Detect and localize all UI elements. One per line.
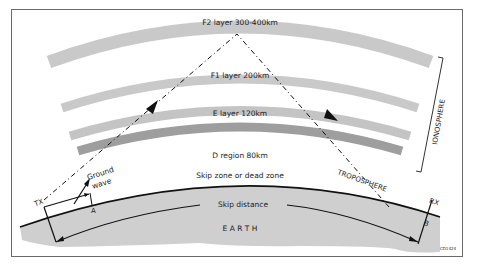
layer-f2-label: F2 layer 300-400km (202, 18, 278, 27)
layer-f2-band (49, 27, 431, 62)
point-a-tick (90, 193, 92, 205)
layer-f1-band (62, 79, 418, 108)
skip-distance-label: Skip distance (218, 200, 268, 209)
figure-code-label: CD1424 (440, 246, 457, 251)
layer-d-band (78, 127, 402, 151)
layer-e-label: E layer 120km (213, 109, 267, 118)
layer-f1-label: F1 layer 200km (211, 71, 270, 80)
sky-wave-up-arrow-icon (146, 100, 158, 114)
tx-label: TX (32, 197, 44, 208)
skip-zone-label: Skip zone or dead zone (196, 171, 284, 180)
point-a-label: A (91, 207, 96, 215)
propagation-diagram: F2 layer 300-400km F1 layer 200km E laye… (0, 0, 477, 270)
ground-wave-line (44, 194, 89, 207)
troposphere-label: TROPOSPHERE (335, 168, 388, 194)
earth-label: E A R T H (223, 224, 258, 233)
layer-d-label: D region 80km (212, 151, 267, 160)
